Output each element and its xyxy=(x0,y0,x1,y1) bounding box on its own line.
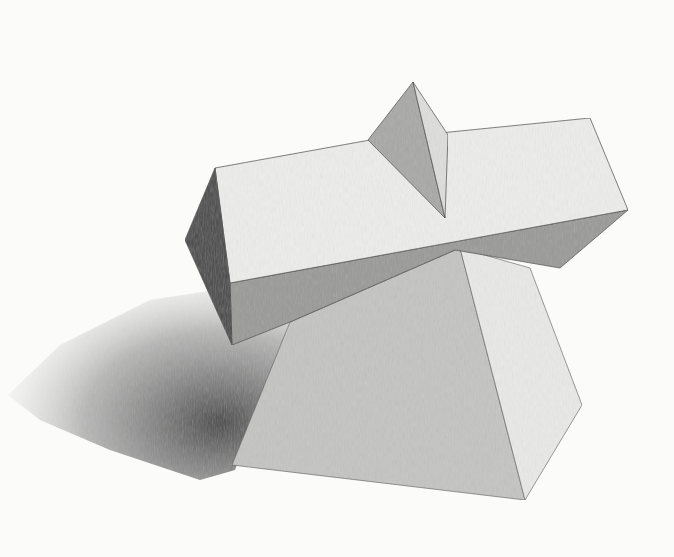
drawing-canvas xyxy=(0,0,674,557)
geometric-solids-drawing xyxy=(0,0,674,557)
